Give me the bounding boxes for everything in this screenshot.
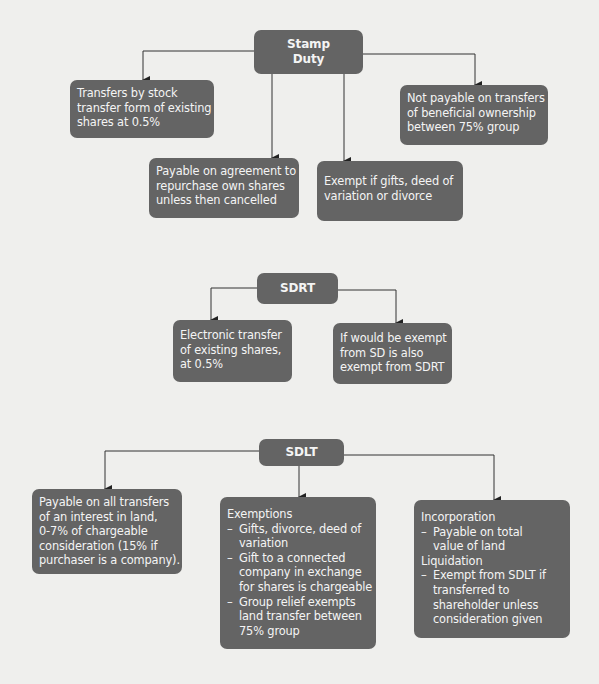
text-line: consideration given	[433, 612, 563, 627]
text-line: purchaser is a company).	[39, 553, 175, 568]
text-line: Gift to a connected	[239, 551, 369, 566]
text-line: If would be exempt	[340, 331, 445, 346]
text-line: variation	[239, 536, 369, 551]
text-line: Group relief exempts	[239, 595, 369, 610]
text-line: 0-7% of chargeable	[39, 524, 175, 539]
text-line: shareholder unless	[433, 598, 563, 613]
sdlt-payable-node: Payable on all transfers of an interest …	[32, 489, 182, 574]
text-line: 75% group	[239, 624, 369, 639]
text-line: between 75% group	[407, 120, 541, 135]
text-line: unless then cancelled	[156, 193, 292, 208]
text-line: Payable on agreement to	[156, 164, 292, 179]
text-line: from SD is also	[340, 346, 445, 361]
text-line: Not payable on transfers	[407, 91, 541, 106]
text-line: consideration (15% if	[39, 539, 175, 554]
text-line: Exempt from SDLT if	[433, 568, 563, 583]
sdrt-title: SDRT	[280, 281, 315, 296]
sdlt-exemptions-node: Exemptions Gifts, divorce, deed of varia…	[220, 497, 376, 649]
sd-group-node: Not payable on transfers of beneficial o…	[400, 85, 548, 145]
text-line: shares at 0.5%	[77, 115, 207, 130]
sdrt-electronic-node: Electronic transfer of existing shares, …	[173, 320, 292, 382]
text-line: Payable on total	[433, 525, 563, 540]
sdrt-exempt-node: If would be exempt from SD is also exemp…	[333, 323, 452, 384]
sdlt-node: SDLT	[259, 439, 344, 466]
sdrt-node: SDRT	[257, 273, 338, 304]
bullet-item: Payable on total value of land	[421, 525, 563, 554]
text-line: for shares is chargeable	[239, 580, 369, 595]
text-line: Gifts, divorce, deed of	[239, 522, 369, 537]
text-line: at 0.5%	[180, 357, 285, 372]
stamp-duty-node: Stamp Duty	[254, 30, 363, 74]
text-line: company in exchange	[239, 565, 369, 580]
liquidation-heading: Liquidation	[421, 554, 563, 569]
text-line: transfer form of existing	[77, 101, 207, 116]
sd-transfers-node: Transfers by stock transfer form of exis…	[70, 80, 214, 138]
exemptions-heading: Exemptions	[227, 507, 369, 522]
text-line: of beneficial ownership	[407, 106, 541, 121]
text-line: exempt from SDRT	[340, 360, 445, 375]
text-line: variation or divorce	[324, 189, 456, 204]
stamp-duty-title-line2: Duty	[293, 52, 324, 67]
text-line: Payable on all transfers	[39, 495, 175, 510]
text-line: transferred to	[433, 583, 563, 598]
text-line: of existing shares,	[180, 343, 285, 358]
text-line: value of land	[433, 539, 563, 554]
sd-exempt-node: Exempt if gifts, deed of variation or di…	[317, 161, 463, 221]
sdlt-title: SDLT	[286, 445, 318, 460]
bullet-item: Gifts, divorce, deed of variation	[227, 522, 369, 551]
text-line: land transfer between	[239, 609, 369, 624]
sdlt-incorporation-node: Incorporation Payable on total value of …	[414, 500, 570, 638]
stamp-duty-title-line1: Stamp	[287, 37, 330, 52]
sd-repurchase-node: Payable on agreement to repurchase own s…	[149, 158, 299, 218]
text-line: repurchase own shares	[156, 179, 292, 194]
bullet-item: Group relief exempts land transfer betwe…	[227, 595, 369, 639]
bullet-item: Exempt from SDLT if transferred to share…	[421, 568, 563, 626]
text-line: Electronic transfer	[180, 328, 285, 343]
text-line: Exempt if gifts, deed of	[324, 174, 456, 189]
bullet-item: Gift to a connected company in exchange …	[227, 551, 369, 595]
text-line: of an interest in land,	[39, 510, 175, 525]
text-line: Transfers by stock	[77, 86, 207, 101]
incorporation-heading: Incorporation	[421, 510, 563, 525]
